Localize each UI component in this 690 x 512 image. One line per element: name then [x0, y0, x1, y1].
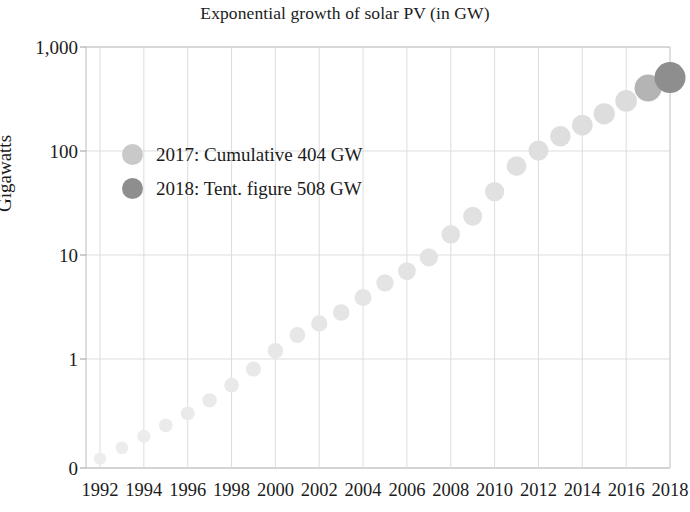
- x-axis-tick-2010: 2010: [476, 481, 513, 500]
- legend-item-1: 2018: Tent. figure 508 GW: [122, 174, 362, 202]
- data-point-1994: [137, 430, 150, 443]
- data-point-2001: [289, 327, 305, 343]
- legend-label: 2018: Tent. figure 508 GW: [156, 179, 362, 198]
- x-axis-tick-1996: 1996: [169, 481, 206, 500]
- x-axis-tick-2016: 2016: [608, 481, 645, 500]
- data-point-2000: [268, 343, 283, 358]
- data-point-1993: [116, 441, 129, 454]
- data-point-1996: [181, 406, 195, 420]
- data-point-1992: [94, 452, 106, 464]
- data-point-2018: [655, 62, 686, 93]
- data-point-2009: [463, 207, 482, 226]
- y-axis-title: Gigawatts: [0, 135, 16, 212]
- legend-label: 2017: Cumulative 404 GW: [156, 145, 362, 164]
- x-axis-tick-2018: 2018: [652, 481, 689, 500]
- data-point-2004: [355, 289, 372, 306]
- y-axis-tick-100: 100: [50, 142, 79, 161]
- y-axis-tick-0: 0: [69, 459, 79, 478]
- data-point-2003: [333, 304, 350, 321]
- y-axis-tick-10: 10: [59, 246, 78, 265]
- legend-marker-icon: [122, 144, 143, 165]
- data-point-1997: [202, 393, 216, 407]
- chart-data-points: [86, 47, 670, 468]
- x-axis-tick-2006: 2006: [388, 481, 425, 500]
- data-point-2011: [507, 156, 527, 176]
- data-point-2015: [594, 103, 615, 124]
- x-axis-tick-1998: 1998: [213, 481, 250, 500]
- data-point-2016: [615, 90, 637, 112]
- plot-area: [86, 47, 670, 468]
- data-point-1995: [159, 419, 173, 433]
- data-point-1998: [224, 378, 239, 393]
- data-point-2014: [572, 115, 593, 136]
- x-axis-tick-2004: 2004: [345, 481, 382, 500]
- data-point-2013: [550, 126, 570, 146]
- x-axis-tick-1994: 1994: [125, 481, 162, 500]
- chart-container: Exponential growth of solar PV (in GW) 1…: [0, 0, 690, 512]
- data-point-2005: [376, 274, 393, 291]
- x-axis-tick-2000: 2000: [257, 481, 294, 500]
- chart-legend: 2017: Cumulative 404 GW2018: Tent. figur…: [122, 140, 362, 202]
- y-axis-tick-1: 1: [69, 350, 79, 369]
- data-point-2010: [485, 182, 504, 201]
- x-axis-tick-1992: 1992: [82, 481, 119, 500]
- data-point-1999: [246, 362, 261, 377]
- legend-item-0: 2017: Cumulative 404 GW: [122, 140, 362, 168]
- y-axis-tick-labels: 1,0001001010: [0, 0, 78, 512]
- data-point-2012: [528, 141, 548, 161]
- data-point-2006: [398, 262, 416, 280]
- x-axis-tick-2008: 2008: [432, 481, 469, 500]
- data-point-2007: [420, 248, 438, 266]
- x-axis-tick-2014: 2014: [564, 481, 601, 500]
- data-point-2002: [311, 315, 327, 331]
- chart-title: Exponential growth of solar PV (in GW): [0, 3, 690, 24]
- x-axis-tick-labels: 1992199419961998200020022004200620082010…: [0, 481, 690, 511]
- y-axis-tick-1000: 1,000: [35, 38, 78, 57]
- legend-marker-icon: [122, 178, 143, 199]
- data-point-2008: [441, 225, 460, 244]
- x-axis-tick-2012: 2012: [520, 481, 557, 500]
- x-axis-tick-2002: 2002: [301, 481, 338, 500]
